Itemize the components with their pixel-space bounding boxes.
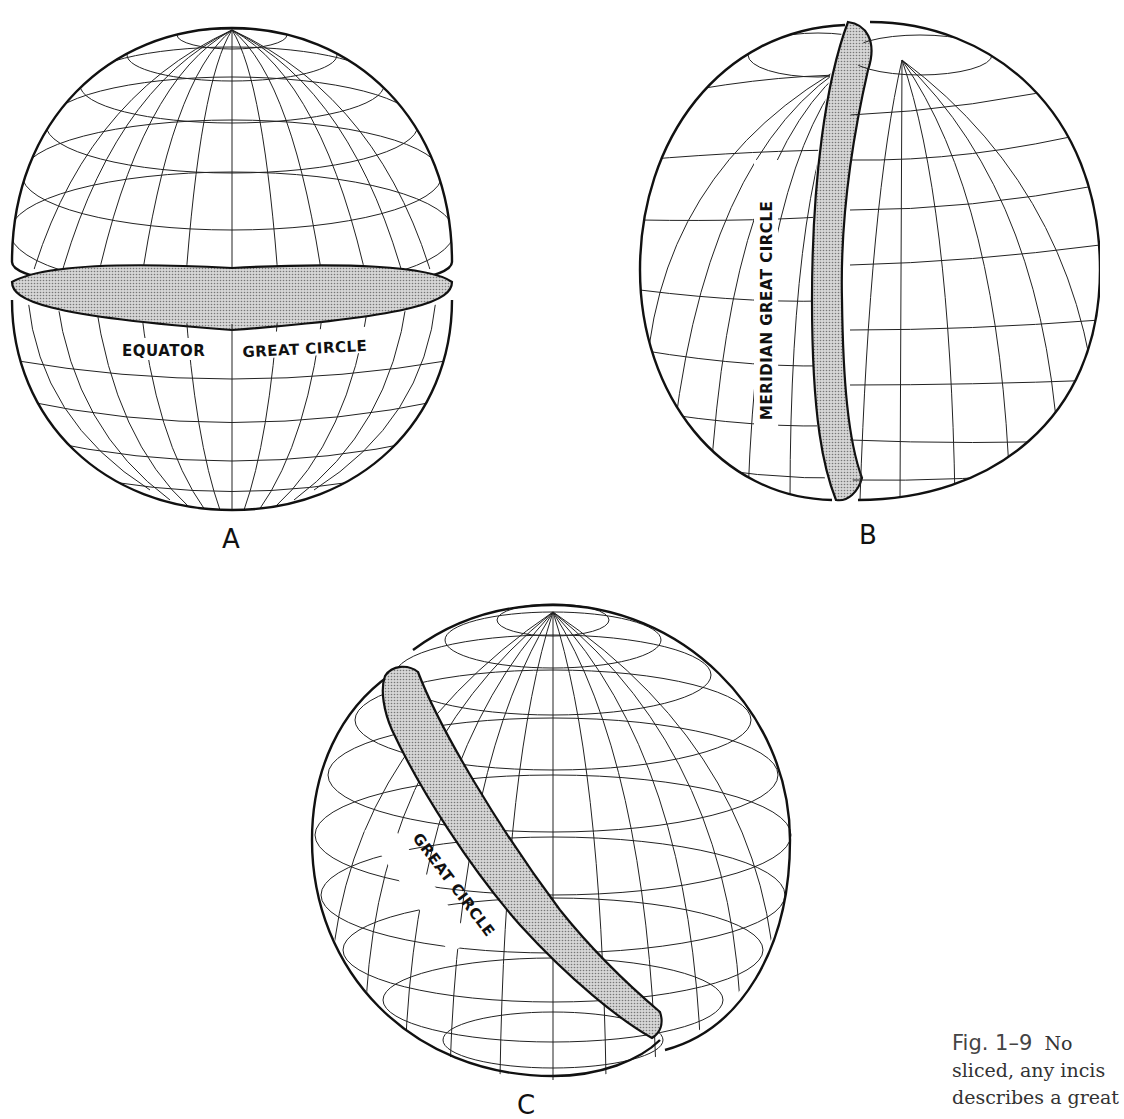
meridian-label: MERIDIAN GREAT CIRCLE [758, 201, 776, 420]
globe-b: MERIDIAN GREAT CIRCLE [640, 22, 1100, 500]
figure-number: Fig. 1–9 [952, 1031, 1032, 1055]
panel-letter-c: C [517, 1090, 535, 1119]
caption-line-2: sliced, any incis [952, 1057, 1124, 1084]
equator-band [12, 265, 452, 330]
equator-label: EQUATOR [122, 342, 205, 360]
panel-letter-a: A [222, 524, 240, 554]
panel-letter-b: B [859, 520, 877, 550]
figure-caption: Fig. 1–9 No sliced, any incis describes … [952, 1030, 1124, 1111]
globe-a: EQUATOR GREAT CIRCLE [10, 21, 454, 510]
globe-a-top-cap [10, 21, 454, 292]
caption-line-3: describes a great [952, 1084, 1124, 1111]
caption-line-1: No [1044, 1032, 1072, 1054]
globe-c: GREAT CIRCLE [312, 604, 791, 1080]
globe-b-right-piece [848, 35, 1100, 500]
globe-a-bottom-hemisphere [12, 300, 452, 510]
